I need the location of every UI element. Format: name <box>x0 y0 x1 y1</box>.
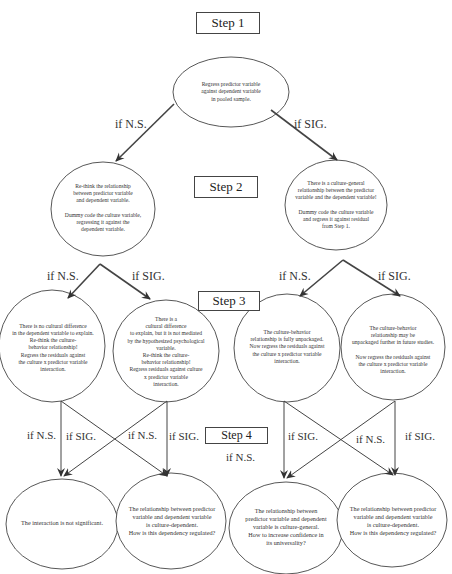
arrow-root-ns <box>116 104 174 161</box>
edge-label-s3b-sig: if SIG. <box>169 430 199 442</box>
step3-sig-ns-node-text: The culture-behavior relationship is ful… <box>236 325 338 369</box>
step4-label: Step 4 <box>205 427 268 444</box>
edge-label-root-sig: if SIG. <box>294 117 327 132</box>
step2-ns-node-text: Re-think the relationship between predic… <box>55 172 151 244</box>
step2-label: Step 2 <box>194 176 258 198</box>
edge-label-s3a-ns: if N.S. <box>27 429 56 441</box>
edge-label-s2r-ns: if N.S. <box>279 269 311 284</box>
edge-label-s2r-sig: if SIG. <box>378 269 411 284</box>
edge-label-s3a-sig: if SIG. <box>66 430 96 442</box>
step4-b-node-text: The relationship between predictor varia… <box>117 502 227 540</box>
step3-label: Step 3 <box>198 291 260 311</box>
step3-ns-sig-node-text: There is a cultural difference to explai… <box>114 312 218 392</box>
step1-label: Step 1 <box>196 12 260 34</box>
edge-label-root-ns: if N.S. <box>115 117 147 132</box>
edge-label-s3b-ns: if N.S. <box>128 429 157 441</box>
step4-d-node-text: The relationship between predictor varia… <box>338 502 448 540</box>
root-node-text: Regress predictor variable against depen… <box>183 68 279 116</box>
edge-label-s3c-sig: if SIG. <box>288 430 318 442</box>
edge-label-s2l-ns: if N.S. <box>47 269 79 284</box>
step4-c-node-text: The relationship between predictor varia… <box>232 504 340 550</box>
culture-research-flowchart: Step 1 Step 2 Step 3 Step 4 Regress pred… <box>0 0 452 574</box>
step3-sig-sig-node-text: The culture-behavior relationship may be… <box>342 322 444 378</box>
edge-label-s3d-sig: if SIG. <box>405 430 435 442</box>
step4-a-node-text: The interaction is not significant. <box>8 510 116 536</box>
step3-ns-ns-node-text: There is no cultural difference in the d… <box>1 312 105 384</box>
edge-label-s3c-ns: if N.S. <box>226 451 255 463</box>
step2-sig-node-text: There is a culture-general relationship … <box>286 170 386 240</box>
edge-label-s2l-sig: if SIG. <box>132 269 165 284</box>
edge-label-s3d-ns: if N.S. <box>356 433 385 445</box>
